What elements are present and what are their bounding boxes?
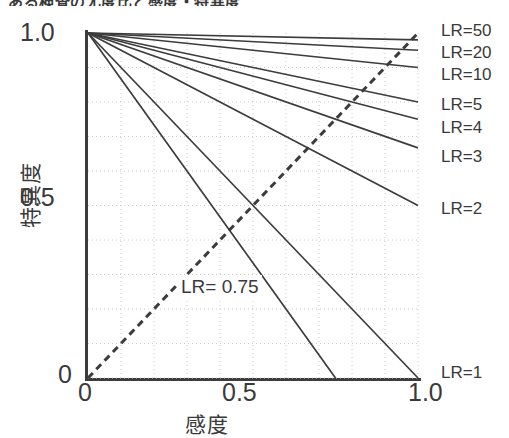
chart-figure: ある検査の尤度比と感度・特異度 1.0 0.5 0 0 0.5 1.0 特異度 … bbox=[0, 0, 509, 438]
series-label-lr-075: LR= 0.75 bbox=[178, 275, 262, 299]
x-tick-label-0: 0 bbox=[78, 380, 92, 405]
y-axis-title: 特異度 bbox=[14, 140, 44, 250]
x-tick-label-1: 1.0 bbox=[408, 380, 443, 405]
curve-end-label: LR=3 bbox=[441, 148, 482, 165]
curve-end-label: LR=50 bbox=[441, 22, 492, 39]
y-tick-label-1: 1.0 bbox=[20, 20, 55, 45]
curve-end-label: LR=5 bbox=[441, 96, 482, 113]
curve-end-label: LR=2 bbox=[441, 200, 482, 217]
figure-top-caption: ある検査の尤度比と感度・特異度 bbox=[8, 0, 268, 6]
x-tick-label-05: 0.5 bbox=[222, 380, 257, 405]
y-tick-label-0: 0 bbox=[58, 362, 72, 387]
curve-end-label: LR=4 bbox=[441, 119, 482, 136]
y-axis-line bbox=[85, 30, 88, 381]
plot-area bbox=[88, 33, 418, 378]
curve-end-label: LR=1 bbox=[441, 364, 482, 381]
curve-end-label: LR=10 bbox=[441, 66, 492, 83]
curve-end-label: LR=20 bbox=[441, 44, 492, 61]
x-axis-title: 感度 bbox=[185, 408, 229, 438]
